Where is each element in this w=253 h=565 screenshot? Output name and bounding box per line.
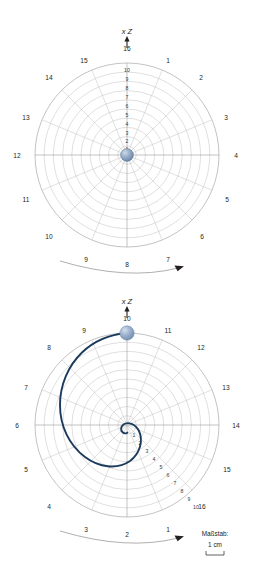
angular-label: 13	[22, 114, 30, 121]
angular-label: 8	[47, 344, 51, 351]
angular-label: 7	[24, 384, 28, 391]
angular-label: 3	[84, 526, 88, 533]
radial-label: 2	[126, 138, 129, 144]
radial-label: 7	[174, 480, 177, 486]
angular-label: 14	[232, 422, 240, 429]
angular-label: 13	[222, 384, 230, 391]
scale-bracket-icon	[206, 551, 224, 555]
radial-label: 8	[181, 488, 184, 494]
polar-chart-initial-state: x Z 16 1	[0, 0, 253, 285]
radial-label: 4	[126, 121, 129, 127]
radial-label: 5	[160, 464, 163, 470]
radial-label: 10	[124, 67, 130, 73]
polar-chart-spiral-trace: x Z 10 11	[0, 285, 253, 565]
scale-legend-value: 1 cm	[208, 541, 222, 548]
radial-label: 4	[153, 456, 156, 462]
angular-label: 11	[165, 327, 172, 334]
angular-label: 1	[166, 526, 170, 533]
radial-label: 7	[126, 94, 129, 100]
scale-legend-title: Maßstab:	[202, 530, 229, 537]
radial-label: 10	[193, 504, 199, 510]
axis-caption-top: x Z	[121, 27, 133, 36]
radial-label: 5	[126, 112, 129, 118]
polar-plot-top-svg: x Z 16 1	[0, 0, 253, 285]
radial-label: 3	[126, 130, 129, 136]
radial-label: 9	[126, 76, 129, 82]
angular-label: 9	[84, 256, 88, 263]
angular-label: 6	[200, 233, 204, 240]
angular-label: 10	[123, 315, 131, 322]
angular-label: 2	[125, 531, 129, 538]
angular-label: 12	[13, 152, 21, 159]
angular-label: 3	[224, 114, 228, 121]
angular-label: 1	[166, 57, 170, 64]
radial-label: 6	[167, 472, 170, 478]
angular-label: 4	[234, 152, 238, 159]
scale-legend: Maßstab: 1 cm	[202, 530, 229, 555]
polar-plot-bottom-svg: x Z 10 11	[0, 285, 253, 565]
angular-label: 16	[123, 45, 131, 52]
angular-label: 7	[166, 256, 170, 263]
angular-label: 15	[223, 466, 231, 473]
angular-label: 15	[80, 57, 88, 64]
radial-label: 8	[126, 85, 129, 91]
angular-label: 10	[45, 233, 53, 240]
angular-label: 5	[225, 196, 229, 203]
angular-label: 4	[47, 503, 51, 510]
angular-label: 6	[15, 422, 19, 429]
angular-label: 2	[199, 74, 203, 81]
radial-label: 6	[126, 103, 129, 109]
angular-label: 12	[197, 344, 205, 351]
angular-label: 9	[82, 327, 86, 334]
center-marker	[121, 149, 134, 162]
radial-label: 3	[146, 448, 149, 454]
angular-label: 16	[198, 503, 206, 510]
angular-label: 14	[45, 74, 53, 81]
radial-label: 1	[133, 432, 136, 438]
radial-label: 9	[188, 496, 191, 502]
angular-label: 5	[24, 466, 28, 473]
axis-caption-bottom: x Z	[121, 297, 133, 306]
angular-label: 11	[23, 196, 30, 203]
angular-label: 8	[125, 261, 129, 268]
